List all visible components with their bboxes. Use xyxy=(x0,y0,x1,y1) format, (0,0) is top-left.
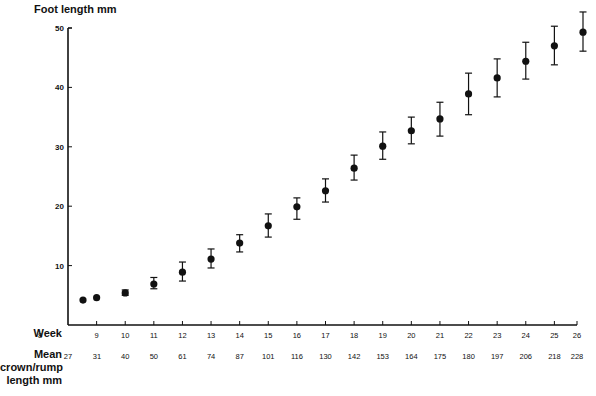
crown-rump-label: 50 xyxy=(150,352,158,361)
mean-marker xyxy=(79,296,86,303)
mean-marker xyxy=(465,90,472,97)
data-point xyxy=(293,198,300,219)
mean-marker xyxy=(236,239,243,246)
data-point xyxy=(236,235,243,252)
data-point xyxy=(436,102,443,136)
mean-marker xyxy=(551,42,558,49)
data-point xyxy=(579,12,586,51)
mean-marker xyxy=(351,165,358,172)
crown-rump-label: 180 xyxy=(462,352,475,361)
data-point xyxy=(179,262,186,281)
week-tick-label: 15 xyxy=(264,331,272,340)
crown-rump-label: 31 xyxy=(93,352,101,361)
week-tick-label: 20 xyxy=(407,331,415,340)
week-tick-label: 8 xyxy=(38,331,42,340)
data-point xyxy=(351,155,358,180)
week-tick-label: 11 xyxy=(150,331,158,340)
week-tick-label: 16 xyxy=(293,331,301,340)
mean-marker xyxy=(93,294,100,301)
week-tick-label: 23 xyxy=(493,331,501,340)
data-point xyxy=(207,249,214,268)
data-point xyxy=(122,289,129,296)
crown-rump-label: 164 xyxy=(405,352,418,361)
crown-rump-label: 130 xyxy=(319,352,332,361)
data-point xyxy=(150,277,157,288)
crown-rump-label: 175 xyxy=(434,352,447,361)
crown-rump-label: 87 xyxy=(235,352,243,361)
y-tick-label: 50 xyxy=(55,24,64,33)
week-tick-label: 24 xyxy=(522,331,530,340)
week-tick-label: 21 xyxy=(436,331,444,340)
mean-marker xyxy=(379,143,386,150)
week-tick-label: 12 xyxy=(178,331,186,340)
week-tick-label: 25 xyxy=(550,331,558,340)
week-tick-label: 19 xyxy=(379,331,387,340)
crown-rump-label: 116 xyxy=(291,352,303,361)
week-tick-label: 17 xyxy=(321,331,329,340)
crown-rump-label: 61 xyxy=(178,352,186,361)
data-point xyxy=(551,26,558,65)
mean-marker xyxy=(436,115,443,122)
week-tick-label: 22 xyxy=(464,331,472,340)
crown-rump-label: 197 xyxy=(491,352,504,361)
crown-rump-label: 74 xyxy=(207,352,215,361)
week-tick-label: 18 xyxy=(350,331,358,340)
foot-length-chart: 1020304050891011121314151617181920212223… xyxy=(0,0,596,396)
mean-marker xyxy=(322,187,329,194)
y-tick-label: 10 xyxy=(55,262,64,271)
data-point xyxy=(494,59,501,97)
mean-marker xyxy=(408,127,415,134)
mean-marker xyxy=(494,74,501,81)
data-point xyxy=(379,132,386,159)
y-tick-label: 40 xyxy=(55,83,64,92)
week-tick-label: 13 xyxy=(207,331,215,340)
week-tick-label: 10 xyxy=(121,331,129,340)
data-point xyxy=(265,214,272,237)
week-tick-label: 9 xyxy=(95,331,99,340)
mean-marker xyxy=(522,58,529,65)
crown-rump-label: 142 xyxy=(348,352,361,361)
mean-marker xyxy=(207,255,214,262)
mean-marker xyxy=(265,222,272,229)
data-point xyxy=(465,73,472,115)
data-point xyxy=(93,294,100,301)
data-point xyxy=(522,42,529,79)
crown-rump-label: 153 xyxy=(376,352,389,361)
crown-rump-label: 27 xyxy=(64,352,72,361)
crown-rump-label: 218 xyxy=(548,352,561,361)
mean-marker xyxy=(579,29,586,36)
data-points xyxy=(79,12,586,304)
axes: 1020304050891011121314151617181920212223… xyxy=(38,24,583,361)
week-tick-label: 26 xyxy=(573,331,581,340)
week-tick-label: 14 xyxy=(235,331,243,340)
mean-marker xyxy=(293,203,300,210)
y-tick-label: 30 xyxy=(55,143,64,152)
crown-rump-label: 101 xyxy=(262,352,275,361)
data-point xyxy=(322,179,329,202)
mean-marker xyxy=(122,289,129,296)
mean-marker xyxy=(150,280,157,287)
crown-rump-label: 206 xyxy=(520,352,533,361)
data-point xyxy=(79,296,86,303)
data-point xyxy=(408,117,415,144)
crown-rump-label: 40 xyxy=(121,352,129,361)
y-tick-label: 20 xyxy=(55,202,64,211)
crown-rump-label: 228 xyxy=(571,352,584,361)
mean-marker xyxy=(179,269,186,276)
